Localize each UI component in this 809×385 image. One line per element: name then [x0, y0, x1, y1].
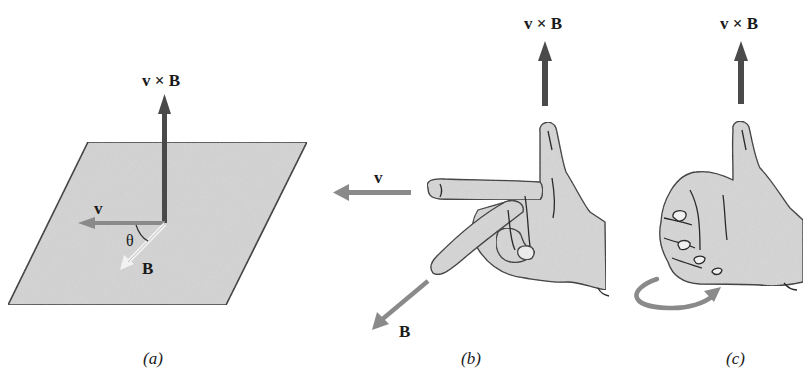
field-label-a: B	[142, 259, 153, 279]
right-hand-fist	[660, 121, 803, 290]
velocity-label-a: v	[94, 199, 103, 219]
cross-product-label-a: v × B	[142, 71, 180, 91]
caption-b: (b)	[461, 349, 481, 369]
cross-product-label-b: v × B	[524, 14, 562, 34]
panel-a	[8, 94, 307, 305]
cross-product-arrow-c	[734, 41, 748, 104]
caption-a: (a)	[143, 349, 163, 369]
velocity-label-b: v	[374, 168, 383, 188]
panel-c	[636, 41, 803, 308]
right-hand-pointing	[427, 122, 609, 296]
caption-c: (c)	[726, 349, 745, 369]
cross-product-arrow-b	[538, 41, 552, 106]
velocity-arrow-b	[333, 184, 411, 201]
field-label-b: B	[399, 322, 410, 342]
cross-product-label-c: v × B	[720, 14, 758, 34]
right-hand-rule-figure: v × B v θ B (a) v × B v B (b) v × B (c)	[0, 0, 809, 385]
angle-label: θ	[126, 232, 134, 250]
